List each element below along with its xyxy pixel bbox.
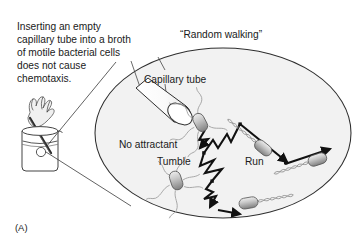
label-no-attractant: No attractant xyxy=(119,138,177,151)
label-capillary-tube: Capillary tube xyxy=(144,73,206,86)
label-tumble: Tumble xyxy=(157,155,191,168)
label-run: Run xyxy=(245,155,264,168)
panel-letter: (A) xyxy=(15,222,28,234)
label-random-walking: “Random walking” xyxy=(180,28,262,41)
figure-caption: Inserting an empty capillary tube into a… xyxy=(17,20,131,85)
focus-bubble xyxy=(36,147,45,156)
chemotaxis-figure-panel-a: Inserting an empty capillary tube into a… xyxy=(0,0,357,246)
magnifier-ellipse xyxy=(95,48,351,218)
